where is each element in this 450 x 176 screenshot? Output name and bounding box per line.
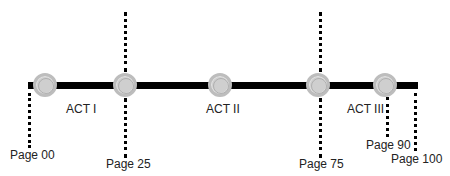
page-label: Page 75 xyxy=(299,157,344,171)
timeline-node xyxy=(113,73,137,97)
marker-line-page-25-bottom xyxy=(124,98,127,158)
act-label: ACT III xyxy=(347,102,384,116)
page-label: Page 00 xyxy=(10,148,55,162)
marker-line-page-75-top xyxy=(319,12,322,72)
marker-line-page-90 xyxy=(386,97,389,137)
page-label: Page 100 xyxy=(391,152,442,166)
act-label: ACT I xyxy=(66,102,96,116)
timeline-node xyxy=(33,73,57,97)
marker-line-page-75-bottom xyxy=(319,98,322,158)
marker-line-page-00 xyxy=(28,93,31,148)
page-label: Page 25 xyxy=(106,157,151,171)
act-label: ACT II xyxy=(206,102,240,116)
page-label: Page 90 xyxy=(366,138,411,152)
marker-line-page-25-top xyxy=(124,12,127,72)
timeline-node xyxy=(373,73,397,97)
timeline-node xyxy=(306,73,330,97)
timeline-node xyxy=(208,73,232,97)
marker-line-page-100 xyxy=(414,93,417,151)
